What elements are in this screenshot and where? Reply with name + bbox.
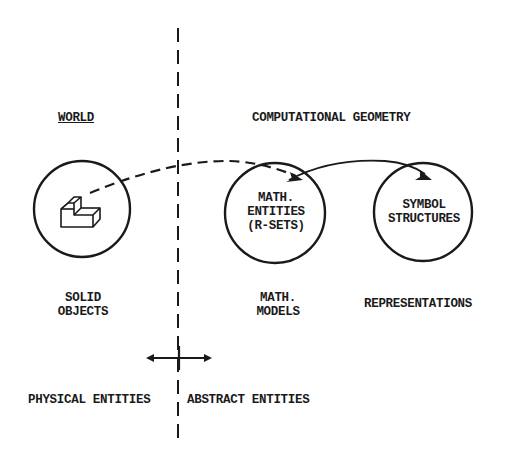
abstract-entities-label: ABSTRACT ENTITIES xyxy=(187,393,309,407)
node-solid-caption: SOLID OBJECTS xyxy=(52,291,114,319)
node-symbol-label: SYMBOL STRUCTURES xyxy=(380,198,468,226)
arrowhead-symbol-icon xyxy=(415,170,432,180)
node-symbol-caption: REPRESENTATIONS xyxy=(364,297,472,311)
node-math-caption: MATH. MODELS xyxy=(250,291,306,319)
double-arrow-icon xyxy=(146,346,212,370)
edge-solid-to-math xyxy=(90,161,296,193)
node-math-label: MATH. ENTITIES (R-SETS) xyxy=(239,191,313,233)
physical-entities-label: PHYSICAL ENTITIES xyxy=(28,393,150,407)
node-solid-circle xyxy=(34,161,130,257)
world-heading: WORLD xyxy=(58,111,94,125)
diagram-canvas: WORLD COMPUTATIONAL GEOMETRY MATH. ENTIT… xyxy=(0,0,515,469)
l-block-solid-icon xyxy=(61,197,100,227)
computational-geometry-heading: COMPUTATIONAL GEOMETRY xyxy=(252,111,410,125)
